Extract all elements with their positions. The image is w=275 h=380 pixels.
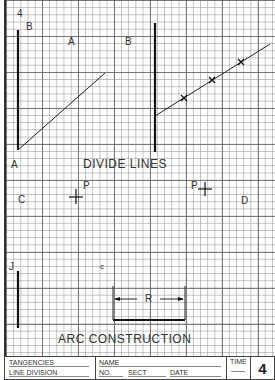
sheet-number: 4 <box>258 360 266 377</box>
title-block-subject: TANGENCIES LINE DIVISION <box>5 357 96 379</box>
no-field: NO. <box>99 369 123 377</box>
date-field: DATE <box>170 369 221 377</box>
arrow-left-icon <box>114 297 120 301</box>
sect-field: SECT <box>128 369 166 377</box>
time-label: TIME <box>230 358 247 365</box>
label-r: R <box>145 294 152 304</box>
label-c: C <box>18 195 25 205</box>
title-block-sheet-number: 4 <box>251 357 274 379</box>
line-a-slanted <box>18 73 105 150</box>
label-j: J <box>9 262 14 272</box>
title-block: TANGENCIES LINE DIVISION NAME NO. SECT D… <box>4 356 275 380</box>
label-b-right: B <box>125 37 132 47</box>
sheet-number-label: 4 <box>17 9 23 19</box>
label-d: D <box>241 196 248 206</box>
time-field <box>231 371 245 372</box>
title-block-student: NAME NO. SECT DATE <box>96 357 227 379</box>
label-p-right: P <box>191 181 198 191</box>
label-b-left: B <box>26 22 33 32</box>
arc-construction-title: ARC CONSTRUCTION <box>58 333 191 345</box>
subject-tangencies: TANGENCIES <box>9 359 89 367</box>
name-field: NAME <box>99 359 221 367</box>
divide-lines-title: DIVIDE LINES <box>83 158 167 170</box>
subject-line-division: LINE DIVISION <box>9 369 89 377</box>
label-a-line: A <box>68 37 75 47</box>
division-ticks <box>181 59 244 101</box>
label-p-left: P <box>83 181 90 191</box>
label-c-center: c <box>100 263 104 271</box>
arrow-right-icon <box>178 297 184 301</box>
title-block-time: TIME <box>227 357 251 379</box>
drawing-layer <box>0 0 275 356</box>
label-a-bottom: A <box>11 160 18 170</box>
